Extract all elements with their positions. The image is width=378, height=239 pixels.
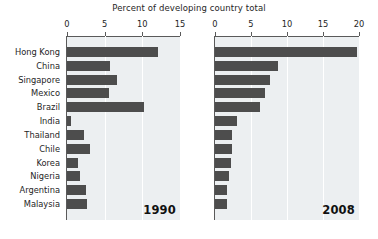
chart-title: Percent of developing country total [0,3,378,13]
x-tick-mark [67,32,68,36]
bar [215,61,278,71]
bar [67,144,90,154]
bar [215,47,357,57]
bar [67,88,109,98]
category-label: Argentina [0,185,60,195]
x-tick-label: 5 [248,19,253,29]
bar [67,116,71,126]
category-label: Nigeria [0,171,60,181]
bar [215,102,260,112]
bar [215,158,231,168]
x-tick-mark [105,32,106,36]
gridline [359,36,360,220]
x-tick-label: 0 [64,19,69,29]
x-tick-label: 15 [175,19,186,29]
panel-annotation-1990: 1990 [143,203,176,217]
x-tick-label: 0 [212,19,217,29]
bar [67,102,144,112]
bar [67,75,117,85]
bar [67,171,80,181]
category-label: Malaysia [0,199,60,209]
x-tick-mark [180,32,181,36]
x-tick-mark [359,32,360,36]
category-label: Korea [0,158,60,168]
category-label: Mexico [0,88,60,98]
x-tick-label: 10 [282,19,293,29]
x-tick-mark [287,32,288,36]
bar [215,116,237,126]
bar [215,144,232,154]
bar [215,75,270,85]
bar [67,185,86,195]
bar [215,130,232,140]
bar [67,158,78,168]
category-label: Chile [0,144,60,154]
x-tick-mark [215,32,216,36]
gridline [287,36,288,220]
category-label: India [0,116,60,126]
panel-annotation-2008: 2008 [322,203,355,217]
category-axis-labels: Hong KongChinaSingaporeMexicoBrazilIndia… [0,36,63,220]
x-tick-label: 20 [354,19,365,29]
category-label: China [0,61,60,71]
panel-1990: 051015 1990 [66,36,181,220]
bar [67,61,110,71]
bar [215,171,229,181]
bar [215,185,227,195]
gridline [180,36,181,220]
category-label: Singapore [0,75,60,85]
panel-2008: 05101520 2008 [214,36,360,220]
x-tick-label: 5 [102,19,107,29]
bar [67,130,84,140]
x-tick-mark [251,32,252,36]
x-tick-mark [142,32,143,36]
bar [67,199,87,209]
chart-figure: Percent of developing country total Hong… [0,0,378,239]
category-label: Thailand [0,130,60,140]
category-label: Hong Kong [0,47,60,57]
bar [215,199,227,209]
x-tick-label: 15 [318,19,329,29]
gridline [323,36,324,220]
x-tick-mark [323,32,324,36]
bar [215,88,265,98]
bar [67,47,158,57]
x-tick-label: 10 [137,19,148,29]
gridline [142,36,143,220]
category-label: Brazil [0,102,60,112]
